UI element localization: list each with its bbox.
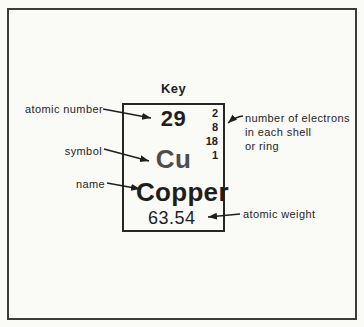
electrons-label-line2: in each shell — [245, 125, 350, 139]
atomic-number-label: atomic number — [18, 102, 103, 116]
element-name: Copper — [136, 177, 229, 208]
element-key-figure: Key 29 2 8 18 1 Cu Copper 63.54 atomic n… — [0, 0, 364, 327]
symbol-label: symbol — [18, 144, 102, 158]
element-symbol: Cu — [124, 144, 223, 175]
element-card: 29 2 8 18 1 Cu Copper 63.54 — [122, 103, 225, 232]
electrons-label-line3: or ring — [245, 139, 350, 153]
key-title: Key — [122, 81, 225, 96]
electrons-label-line1: number of electrons — [245, 111, 350, 125]
shell-count-1: 2 — [206, 106, 218, 120]
atomic-weight-label: atomic weight — [243, 207, 315, 221]
atomic-weight-value: 63.54 — [148, 208, 196, 229]
electrons-label: number of electrons in each shell or rin… — [245, 111, 350, 153]
name-label: name — [18, 177, 105, 191]
shell-count-2: 8 — [206, 120, 218, 134]
